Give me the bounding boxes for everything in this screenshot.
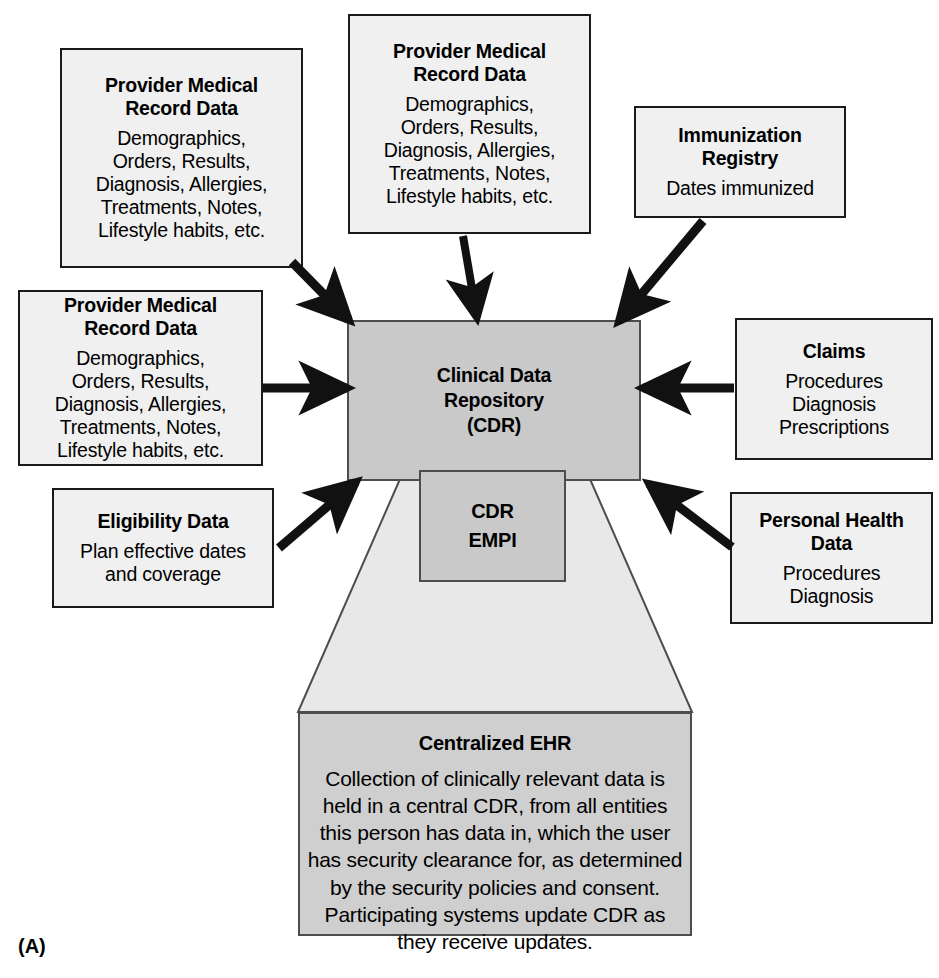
body-line: Demographics, bbox=[405, 93, 534, 115]
node-body: Procedures Diagnosis Prescriptions bbox=[779, 370, 889, 439]
body-line: Diagnosis, Allergies, bbox=[96, 173, 267, 195]
body-line: Collection of clinically relevant data i… bbox=[325, 767, 665, 790]
body-line: Orders, Results, bbox=[113, 150, 251, 172]
node-personal-health-data[interactable]: Personal Health Data Procedures Diagnosi… bbox=[730, 492, 933, 624]
body-line: Treatments, Notes, bbox=[60, 416, 221, 438]
node-title: Eligibility Data bbox=[97, 510, 228, 533]
title-line: Record Data bbox=[84, 317, 197, 339]
arrow-eligibility-data-to-cdr bbox=[279, 482, 356, 548]
body-line: Orders, Results, bbox=[72, 370, 210, 392]
body-line: Procedures bbox=[783, 562, 881, 584]
node-body: Plan effective dates and coverage bbox=[80, 540, 246, 586]
body-line: Diagnosis bbox=[790, 585, 874, 607]
title-line: (CDR) bbox=[467, 414, 521, 436]
body-line: Lifestyle habits, etc. bbox=[57, 439, 224, 461]
node-body: Collection of clinically relevant data i… bbox=[302, 765, 689, 956]
node-immunization-registry[interactable]: Immunization Registry Dates immunized bbox=[634, 106, 846, 218]
node-title: Personal Health Data bbox=[759, 509, 903, 555]
figure-panel-label: (A) bbox=[18, 935, 46, 958]
body-line: Orders, Results, bbox=[401, 116, 539, 138]
body-line: Lifestyle habits, etc. bbox=[386, 185, 553, 207]
title-line: Registry bbox=[702, 147, 778, 169]
node-body: Dates immunized bbox=[666, 177, 814, 200]
node-eligibility-data[interactable]: Eligibility Data Plan effective dates an… bbox=[52, 488, 274, 608]
diagram-canvas: Provider Medical Record Data Demographic… bbox=[0, 0, 939, 978]
node-body: Demographics, Orders, Results, Diagnosis… bbox=[96, 127, 267, 242]
node-title: Centralized EHR bbox=[419, 732, 572, 756]
title-line: CDR bbox=[471, 500, 514, 522]
arrow-provider-top-left-to-cdr bbox=[292, 262, 349, 320]
body-line: Dates immunized bbox=[666, 177, 814, 199]
title-line: Personal Health bbox=[759, 509, 903, 531]
body-line: Treatments, Notes, bbox=[101, 196, 262, 218]
title-line: Record Data bbox=[125, 97, 238, 119]
arrow-personal-health-data-to-cdr bbox=[649, 484, 732, 547]
title-line: Provider Medical bbox=[105, 74, 258, 96]
node-cdr-empi[interactable]: CDR EMPI bbox=[419, 470, 566, 582]
body-line: they receive updates. bbox=[397, 930, 592, 953]
body-line: Plan effective dates bbox=[80, 540, 246, 562]
node-title: Provider Medical Record Data bbox=[105, 74, 258, 120]
node-clinical-data-repository[interactable]: Clinical Data Repository (CDR) bbox=[347, 320, 641, 481]
node-title: Provider Medical Record Data bbox=[64, 294, 217, 340]
title-line: Centralized EHR bbox=[419, 732, 572, 754]
node-provider-medical-record-data-left[interactable]: Provider Medical Record Data Demographic… bbox=[18, 290, 263, 466]
title-line: Data bbox=[811, 532, 852, 554]
title-line: Repository bbox=[444, 389, 544, 411]
node-body: Procedures Diagnosis bbox=[783, 562, 881, 608]
node-title: Claims bbox=[803, 340, 866, 363]
title-line: Clinical Data bbox=[437, 364, 551, 386]
node-centralized-ehr[interactable]: Centralized EHR Collection of clinically… bbox=[298, 712, 692, 936]
body-line: this person has data in, which the user bbox=[320, 821, 671, 844]
body-line: Demographics, bbox=[117, 127, 246, 149]
arrow-provider-top-center-to-cdr bbox=[463, 236, 477, 318]
node-provider-medical-record-data-top-left[interactable]: Provider Medical Record Data Demographic… bbox=[60, 48, 303, 268]
node-title: Immunization Registry bbox=[678, 124, 801, 170]
body-line: Diagnosis, Allergies, bbox=[384, 139, 555, 161]
body-line: Demographics, bbox=[76, 347, 205, 369]
title-line: EMPI bbox=[468, 529, 516, 551]
body-line: Diagnosis, Allergies, bbox=[55, 393, 226, 415]
body-line: Treatments, Notes, bbox=[389, 162, 550, 184]
title-line: Record Data bbox=[413, 63, 526, 85]
title-line: Eligibility Data bbox=[97, 510, 228, 532]
body-line: Prescriptions bbox=[779, 416, 889, 438]
node-body: Demographics, Orders, Results, Diagnosis… bbox=[384, 93, 555, 208]
title-line: Immunization bbox=[678, 124, 801, 146]
body-line: Procedures bbox=[785, 370, 883, 392]
node-title: Clinical Data Repository (CDR) bbox=[437, 363, 551, 438]
body-line: held in a central CDR, from all entities bbox=[323, 794, 667, 817]
body-line: by the security policies and consent. bbox=[330, 876, 660, 899]
title-line: Claims bbox=[803, 340, 866, 362]
body-line: Diagnosis bbox=[792, 393, 876, 415]
node-body: Demographics, Orders, Results, Diagnosis… bbox=[55, 347, 226, 462]
title-line: Provider Medical bbox=[393, 40, 546, 62]
node-provider-medical-record-data-top-center[interactable]: Provider Medical Record Data Demographic… bbox=[348, 14, 591, 234]
node-title: Provider Medical Record Data bbox=[393, 40, 546, 86]
title-line: Provider Medical bbox=[64, 294, 217, 316]
body-line: Lifestyle habits, etc. bbox=[98, 219, 265, 241]
body-line: and coverage bbox=[105, 563, 221, 585]
arrow-immunization-registry-to-cdr bbox=[619, 221, 703, 321]
body-line: has security clearance for, as determine… bbox=[308, 848, 683, 871]
node-claims[interactable]: Claims Procedures Diagnosis Prescription… bbox=[735, 318, 933, 460]
node-title: CDR EMPI bbox=[468, 497, 516, 555]
body-line: Participating systems update CDR as bbox=[325, 903, 666, 926]
